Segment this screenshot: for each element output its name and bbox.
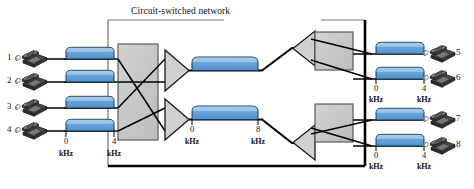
endpoint-label-8: 8 bbox=[456, 140, 461, 149]
spectrum-subscriber-6 bbox=[376, 67, 424, 79]
spectrum-trunk-bottom bbox=[192, 106, 258, 120]
right-bottom-axis-start-value: 0 bbox=[369, 151, 383, 160]
telephone-icon-2 bbox=[16, 73, 48, 90]
telephone-icon-1 bbox=[16, 50, 48, 67]
spectrum-group-trunk bbox=[192, 57, 258, 125]
telephone-icon-3 bbox=[16, 99, 48, 116]
spectrum-trunk-top bbox=[192, 57, 258, 71]
phone-group-left bbox=[16, 50, 48, 139]
left-axis-end-unit: kHz bbox=[101, 150, 127, 158]
endpoint-label-3: 3 bbox=[7, 102, 12, 111]
endpoint-label-1: 1 bbox=[7, 53, 12, 62]
spectrum-subscriber-5 bbox=[376, 42, 424, 54]
trunk-axis-end-value: 8 bbox=[251, 125, 265, 134]
right-bottom-axis-start-unit: kHz bbox=[363, 163, 389, 171]
spectrum-group-left bbox=[66, 47, 114, 137]
multiplexer-top bbox=[165, 50, 189, 91]
demultiplexer-bottom bbox=[293, 125, 315, 160]
egress-crossbar-switch-bottom bbox=[311, 104, 372, 146]
egress-crossbar-switch-top bbox=[311, 32, 372, 79]
spectrum-subscriber-4 bbox=[66, 119, 114, 131]
spectrum-subscriber-2 bbox=[66, 70, 114, 82]
circuit-switched-network-diagram bbox=[0, 0, 474, 189]
left-axis-end-value: 4 bbox=[107, 137, 121, 146]
spectrum-subscriber-7 bbox=[376, 108, 424, 120]
spectrum-subscriber-1 bbox=[66, 47, 114, 59]
left-axis-start-value: 0 bbox=[59, 137, 73, 146]
left-axis-start-unit: kHz bbox=[53, 150, 79, 158]
right-top-axis-end-value: 4 bbox=[417, 84, 431, 93]
telephone-icon-4 bbox=[16, 122, 48, 139]
spectrum-subscriber-3 bbox=[66, 96, 114, 108]
endpoint-label-6: 6 bbox=[456, 73, 461, 82]
spectrum-subscriber-8 bbox=[376, 134, 424, 146]
telephone-icon-5 bbox=[424, 45, 456, 62]
diagram-canvas: Circuit-switched network 1 2 3 4 5 6 7 8… bbox=[0, 0, 474, 189]
right-top-axis-start-value: 0 bbox=[369, 84, 383, 93]
right-top-axis-start-unit: kHz bbox=[363, 96, 389, 104]
right-bottom-axis-end-unit: kHz bbox=[411, 163, 437, 171]
endpoint-label-2: 2 bbox=[7, 76, 12, 85]
endpoint-label-7: 7 bbox=[456, 114, 461, 123]
right-top-axis-end-unit: kHz bbox=[411, 96, 437, 104]
telephone-icon-7 bbox=[424, 111, 456, 128]
network-title: Circuit-switched network bbox=[131, 7, 230, 17]
trunk-axis-start-unit: kHz bbox=[179, 138, 205, 146]
endpoint-label-4: 4 bbox=[7, 125, 12, 134]
demultiplexer-group bbox=[293, 31, 315, 160]
endpoint-label-5: 5 bbox=[456, 48, 461, 57]
right-bottom-axis-end-value: 4 bbox=[417, 151, 431, 160]
trunk-axis-start-value: 0 bbox=[185, 125, 199, 134]
ingress-crossbar-switch bbox=[118, 44, 165, 140]
trunk-axis-end-unit: kHz bbox=[245, 138, 271, 146]
